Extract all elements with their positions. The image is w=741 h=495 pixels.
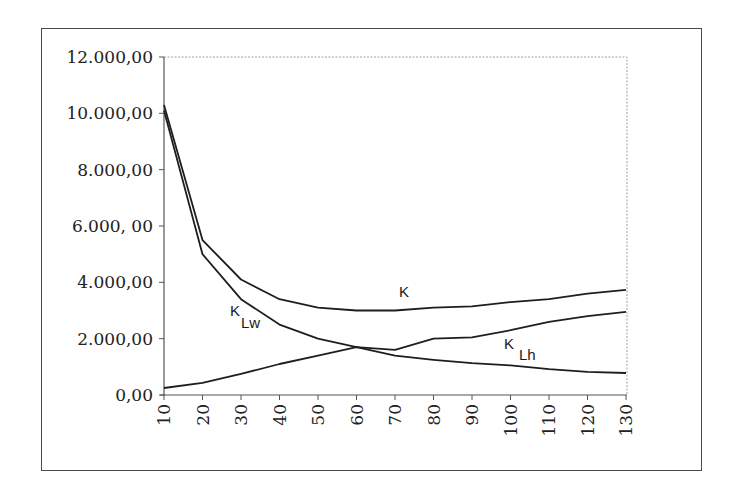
x-tick-label: 90: [462, 404, 482, 426]
series-line-k-lw: [164, 111, 626, 374]
x-tick-label: 110: [539, 404, 559, 436]
y-tick-label: 2.000,00: [77, 329, 153, 349]
x-tick-label: 120: [578, 404, 598, 436]
y-tick-label: 8.000,00: [77, 160, 153, 180]
x-tick-label: 30: [231, 404, 251, 426]
x-tick-label: 40: [270, 404, 290, 426]
series-lines: [164, 105, 626, 388]
label-K-Lw: KLw: [230, 302, 260, 331]
y-tick-label: 0,00: [115, 385, 153, 405]
plot-area-border: [164, 57, 627, 395]
x-tick-label: 10: [154, 404, 174, 426]
x-tick-label: 60: [347, 404, 367, 426]
label-K-Lh: KLh: [504, 335, 536, 363]
series-line-k: [164, 105, 626, 311]
x-tick-label: 20: [193, 404, 213, 426]
x-tick-label: 70: [385, 404, 405, 426]
x-tick-label: 50: [308, 404, 328, 426]
x-tick-label: 80: [424, 404, 444, 426]
series-line-k-lh: [164, 312, 626, 388]
label-K: K: [399, 283, 409, 300]
y-tick-label: 12.000,00: [66, 47, 153, 67]
y-tick-label: 10.000,00: [66, 103, 153, 123]
line-chart: 0,002.000,004.000,006.000, 008.000,0010.…: [0, 0, 741, 495]
y-axis-ticks: 0,002.000,004.000,006.000, 008.000,0010.…: [66, 47, 164, 405]
x-axis-ticks: 102030405060708090100110120130: [154, 395, 636, 436]
y-tick-label: 6.000, 00: [72, 216, 153, 236]
x-tick-label: 130: [616, 404, 636, 436]
y-tick-label: 4.000,00: [77, 272, 153, 292]
x-tick-label: 100: [501, 404, 521, 436]
